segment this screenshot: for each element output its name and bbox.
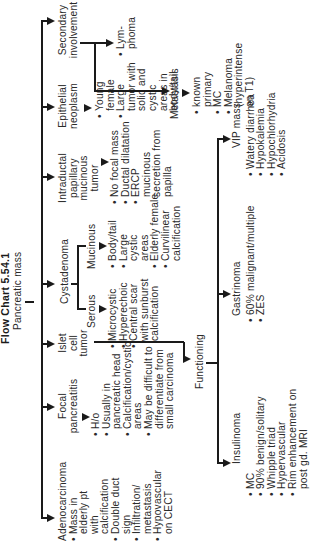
- ipmt-bullets: No focal mass Ductal dilatation ERCP muc…: [110, 121, 174, 204]
- node-metastasis: Metastasis: [170, 68, 181, 119]
- arrow-down-icon: [183, 355, 191, 363]
- node-functioning: Functioning: [195, 334, 206, 389]
- arrow-down-icon: [47, 340, 55, 348]
- main-bus-line: [41, 21, 43, 519]
- arrow-down-icon: [106, 39, 114, 47]
- node-gastrinoma: Gastrinoma 60% malignant/multiple ZES: [232, 205, 267, 322]
- arrow-down-icon: [47, 280, 55, 288]
- lymphoma-bullets: Lym-phoma: [116, 15, 137, 56]
- node-epithelial-neoplasm: Epithelial neoplasm: [58, 81, 79, 131]
- arrow-down-icon: [84, 104, 92, 112]
- serous-bullets: Microcystic Hyperechoic Central scar wit…: [108, 277, 161, 348]
- cystadenoma-bus-line: [77, 246, 79, 310]
- node-islet-cell-tumor: Islet cell tumor: [58, 328, 90, 358]
- focal-pancreatitis-bullets: H/o Usually in pancreatic head Calcifica…: [91, 343, 176, 436]
- adenocarcinoma-bullets: Mass in elderly pt with calcification Do…: [69, 462, 175, 541]
- node-insulinoma: Insulinoma MC 90% benign/solitary Whippl…: [232, 371, 309, 496]
- arrow-down-icon: [99, 305, 107, 313]
- arrow-down-icon: [223, 290, 231, 298]
- root-node-pancreatic-mass: Pancreatic mass: [13, 252, 24, 330]
- chart-title: Flow Chart 5.54.1: [0, 253, 11, 344]
- arrow-down-icon: [47, 514, 55, 522]
- functioning-bus-line: [217, 139, 219, 464]
- mucinous-bullets: Body/tail Large cystic areas Elderly fem…: [108, 194, 182, 268]
- node-intraductal-papillary-mucinous-tumor: Intraductal papillary mucinous tumor: [58, 147, 100, 209]
- arrow-down-icon: [47, 17, 55, 25]
- connector: [77, 309, 86, 311]
- flow-chart: Flow Chart 5.54.1 Pancreatic mass Adenoc…: [0, 0, 311, 544]
- metastasis-bullets: known primary MC Melanoma (hyperintense …: [192, 35, 256, 114]
- arrow-down-icon: [223, 459, 231, 467]
- arrow-down-icon: [223, 135, 231, 143]
- arrow-down-icon: [47, 103, 55, 111]
- node-secondary-involvement: Secondary involvement: [58, 0, 79, 60]
- arrow-down-icon: [101, 158, 109, 166]
- node-cystadenoma: Cystadenoma: [60, 239, 71, 304]
- connector: [94, 43, 96, 92]
- node-mucinous: Mucinous: [87, 224, 98, 269]
- node-adenocarcinoma: Adenocarcinoma Mass in elderly pt with c…: [58, 462, 175, 541]
- connector: [77, 246, 86, 248]
- arrow-down-icon: [82, 413, 90, 421]
- root-connector: [25, 302, 34, 304]
- node-focal-pancreatitis: Focal pancreatitis: [58, 376, 79, 436]
- node-serous: Serous: [87, 295, 98, 328]
- connector: [94, 91, 164, 93]
- arrow-down-icon: [47, 403, 55, 411]
- arrow-down-icon: [182, 89, 190, 97]
- arrow-down-icon: [99, 242, 107, 250]
- arrow-down-icon: [47, 173, 55, 181]
